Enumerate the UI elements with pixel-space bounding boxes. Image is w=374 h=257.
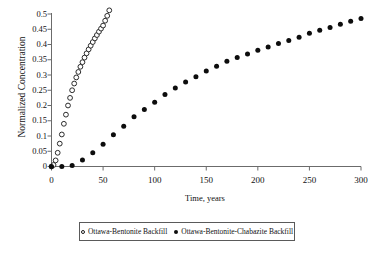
x-tick-label: 0 — [32, 176, 72, 185]
x-tick-label: 250 — [289, 176, 329, 185]
x-tick-label: 200 — [238, 176, 278, 185]
x-axis-title-text: Time, years — [149, 193, 225, 203]
legend-label-1: Ottawa-Bentonite Backfill — [88, 228, 167, 236]
x-axis-tick-labels: 050100150200250300 — [0, 0, 374, 257]
open-circle-marker-icon — [81, 230, 85, 234]
x-tick-label: 150 — [186, 176, 226, 185]
legend-item-ottawa-bentonite-chabazite-backfill: Ottawa-Bentonite-Chabazite Backfill — [174, 228, 293, 236]
x-tick-label: 300 — [341, 176, 374, 185]
chart-figure: Normalized Concentration 00.050.10.150.2… — [0, 0, 374, 257]
x-axis-title: Time, years — [0, 193, 374, 203]
legend-label-2: Ottawa-Bentonite-Chabazite Backfill — [181, 228, 293, 236]
filled-circle-marker-icon — [174, 230, 178, 234]
legend-item-ottawa-bentonite-backfill: Ottawa-Bentonite Backfill — [81, 228, 167, 236]
x-tick-label: 50 — [83, 176, 123, 185]
chart-legend: Ottawa-Bentonite Backfill Ottawa-Bentoni… — [79, 222, 295, 241]
x-tick-label: 100 — [135, 176, 175, 185]
